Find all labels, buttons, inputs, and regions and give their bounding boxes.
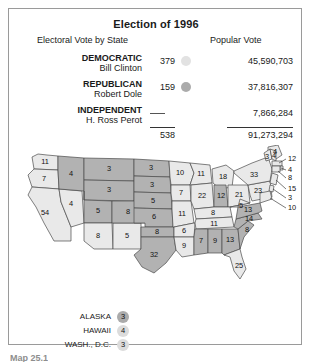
result-row-independent: INDEPENDENT H. Ross Perot 7,866,284 <box>9 105 303 129</box>
leader-line-DE <box>273 189 286 198</box>
election-map-figure: Election of 1996 Electoral Vote by State… <box>8 8 302 345</box>
label-WA: 11 <box>41 157 49 166</box>
label-PA: 23 <box>254 186 262 195</box>
callout-MD: 10 <box>288 203 296 212</box>
electoral-votes: 159 <box>149 82 175 92</box>
label-NE: 5 <box>151 196 155 205</box>
column-header-popular: Popular Vote <box>210 35 262 45</box>
callout-MA: 12 <box>288 154 296 163</box>
candidate-name: H. Ross Perot <box>9 115 142 125</box>
label-SD: 3 <box>150 180 154 189</box>
totals-rule-popular <box>227 127 293 128</box>
label-KS: 6 <box>152 212 156 221</box>
label-GA: 13 <box>226 235 234 244</box>
label-AL: 9 <box>213 236 217 245</box>
label-NV: 4 <box>69 199 73 208</box>
label-FL: 25 <box>235 261 243 270</box>
total-electoral-votes: 538 <box>149 130 175 140</box>
party-color-swatch-democratic <box>181 56 191 66</box>
label-UT: 5 <box>96 206 100 215</box>
label-OK: 8 <box>155 227 159 236</box>
leader-line-CT <box>278 171 286 178</box>
callout-NJ: 15 <box>288 184 296 193</box>
callout-DE: 3 <box>288 193 292 202</box>
party-name: INDEPENDENT <box>9 105 142 115</box>
inset-votes-hawaii: 4 <box>117 325 129 337</box>
label-NM: 5 <box>125 231 129 240</box>
label-MI: 18 <box>219 172 227 181</box>
result-row-democratic: DEMOCRATIC Bill Clinton 379 45,590,703 <box>9 53 303 77</box>
label-AZ: 8 <box>96 231 100 240</box>
figure-caption: Map 25.1 <box>10 353 48 362</box>
label-SC: 8 <box>245 225 249 234</box>
label-WY: 3 <box>107 185 111 194</box>
popular-votes: 45,590,703 <box>205 56 293 66</box>
leader-line-MD <box>270 198 286 208</box>
label-CO: 8 <box>126 207 130 216</box>
label-AR: 6 <box>182 226 186 235</box>
callout-CT: 8 <box>288 173 292 182</box>
totals-rule-electoral <box>150 127 175 128</box>
electoral-votes: 379 <box>149 56 175 66</box>
label-NC: 14 <box>245 214 253 223</box>
label-MS: 7 <box>199 236 203 245</box>
state-CT <box>272 166 280 172</box>
label-IN: 12 <box>217 191 225 200</box>
no-electoral-votes-dash <box>150 113 165 114</box>
inset-label: HAWAII <box>31 326 111 335</box>
party-color-swatch-republican <box>181 82 191 92</box>
candidate-name: Robert Dole <box>9 89 142 99</box>
party-name: DEMOCRATIC <box>9 53 142 63</box>
label-IL: 22 <box>198 191 206 200</box>
label-ID: 4 <box>69 169 73 178</box>
label-VA: 13 <box>244 205 252 214</box>
label-MN: 10 <box>176 168 184 177</box>
state-MA <box>272 161 282 166</box>
inset-votes-dc: 3 <box>117 339 129 351</box>
label-TN: 11 <box>210 219 218 228</box>
inset-votes-alaska: 3 <box>117 311 129 323</box>
label-VT: 3 <box>265 152 269 161</box>
figure-title: Election of 1996 <box>9 18 303 30</box>
leader-line-NJ <box>276 180 286 189</box>
label-WV: 5 <box>239 201 243 210</box>
label-KY: 8 <box>211 208 215 217</box>
label-IA: 7 <box>179 188 183 197</box>
label-NH: 4 <box>272 151 276 160</box>
label-OH: 21 <box>235 190 243 199</box>
inset-label: WASH., D.C. <box>31 340 111 349</box>
candidate-name: Bill Clinton <box>9 63 142 73</box>
result-row-republican: REPUBLICAN Robert Dole 159 37,816,307 <box>9 79 303 103</box>
party-name: REPUBLICAN <box>9 79 142 89</box>
label-LA: 9 <box>182 241 186 250</box>
label-ND: 3 <box>149 163 153 172</box>
label-NY: 33 <box>250 170 258 179</box>
label-MO: 11 <box>178 209 186 218</box>
label-CA: 54 <box>41 208 49 217</box>
label-OR: 7 <box>42 174 46 183</box>
label-WI: 11 <box>197 169 205 178</box>
total-popular-votes: 91,273,294 <box>205 130 293 140</box>
popular-votes: 7,866,284 <box>205 108 293 118</box>
label-TX: 32 <box>150 250 158 259</box>
popular-votes: 37,816,307 <box>205 82 293 92</box>
column-header-electoral: Electoral Vote by State <box>37 35 128 45</box>
inset-label: ALASKA <box>31 312 111 321</box>
united-states-electoral-map: 11 7 54 4 4 3 3 5 8 5 8 3 3 5 6 8 32 10 … <box>14 145 298 305</box>
label-MT: 3 <box>107 164 111 173</box>
